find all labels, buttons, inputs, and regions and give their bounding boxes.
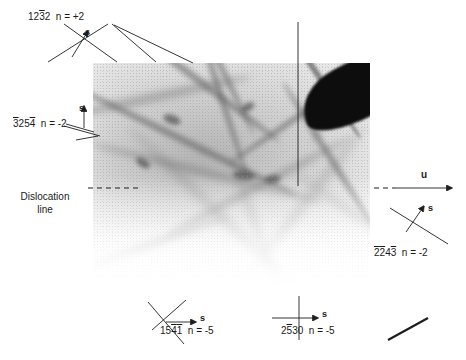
reflection-label-bottom-left: 1541 n = -5: [160, 325, 214, 338]
s-vector-label-bottom-right: s: [322, 309, 327, 320]
stray-streak: [388, 318, 428, 340]
s-vector-label-top-left: s: [85, 27, 90, 38]
reflection-label-right: 2243 n = -2: [374, 247, 428, 260]
s-vector-label-mid-left: s: [79, 103, 84, 114]
reflection-label-bottom-right: 2530 n = -5: [281, 325, 335, 338]
dislocation-line-label: Dislocation line: [8, 191, 82, 216]
n-value-label: n = -2: [402, 247, 428, 258]
s-vector-top-left: [48, 24, 108, 62]
miller-index-digit-bar: 1: [177, 325, 183, 336]
n-value-label: n = -5: [188, 325, 214, 336]
miller-index-digit: 0: [298, 325, 304, 336]
n-value-label: n = +2: [56, 11, 84, 22]
s-vector-label-right: s: [428, 203, 433, 214]
n-value-label: n = -5: [309, 325, 335, 336]
dislocation-line-label-row1: Dislocation: [21, 191, 70, 202]
dislocation-line-label-row2: line: [37, 204, 53, 215]
dislocation-network-micrograph: [93, 63, 370, 285]
figure-canvas: 1232 n = +2 s 3254 n = -2 s Dislocation …: [0, 0, 466, 360]
reflection-label-top-left: 1232 n = +2: [28, 11, 84, 24]
s-vector-label-bottom-left: s: [200, 313, 205, 324]
s-vector-right: [390, 206, 448, 244]
miller-index-digit-bar: 3: [391, 247, 397, 258]
leader-lines-top-left: [64, 24, 193, 63]
n-value-label: n = -2: [41, 118, 67, 129]
reflection-label-mid-left: 3254 n = -2: [13, 118, 67, 131]
miller-index-digit-bar: 4: [30, 118, 36, 129]
miller-index-digit: 2: [45, 11, 51, 22]
u-vector-label: u: [421, 169, 427, 182]
